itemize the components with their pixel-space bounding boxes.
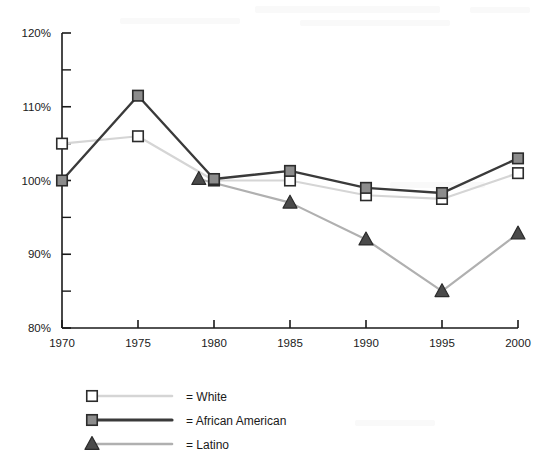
y-tick-label: 80% [28,322,51,334]
marker-african-american [513,153,524,164]
legend-label-african-american: = African American [186,414,286,428]
marker-african-american [285,166,296,177]
marker-latino [359,232,373,245]
x-tick-label: 1990 [353,337,379,349]
legend-marker-african-american [87,415,98,426]
line-chart: 80%90%100%110%120% 197019751980198519901… [0,0,557,461]
x-axis-ticks [62,320,518,328]
y-tick-label: 120% [22,27,51,39]
x-tick-label: 1995 [429,337,455,349]
legend-label-white: = White [186,390,227,404]
marker-african-american [133,90,144,101]
x-axis-tick-labels: 1970197519801985199019952000 [49,337,531,349]
y-tick-label: 110% [22,101,51,113]
marker-white [133,131,144,142]
x-tick-label: 1985 [277,337,303,349]
marker-latino [511,226,525,239]
x-tick-label: 1980 [201,337,227,349]
series-lines [62,96,518,291]
marker-white [513,168,524,179]
marker-latino [435,284,449,297]
chart-legend: = White= African American= Latino [85,390,286,452]
series-line-latino [199,179,518,291]
y-tick-label: 100% [22,175,51,187]
x-tick-label: 2000 [505,337,531,349]
marker-african-american [361,183,372,194]
x-tick-label: 1975 [125,337,151,349]
x-tick-label: 1970 [49,337,75,349]
marker-african-american [437,188,448,199]
marker-african-american [57,175,68,186]
y-axis-tick-labels: 80%90%100%110%120% [22,27,51,334]
legend-label-latino: = Latino [186,438,229,452]
y-tick-label: 90% [28,248,51,260]
legend-marker-white [87,391,98,402]
marker-white [57,138,68,149]
marker-african-american [209,174,220,185]
chart-canvas: 80%90%100%110%120% 197019751980198519901… [0,0,557,461]
